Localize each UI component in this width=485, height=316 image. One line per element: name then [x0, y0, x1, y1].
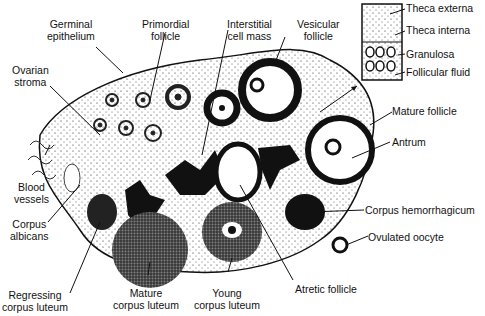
label-young-corpus-luteum: Youngcorpus luteum	[194, 287, 260, 311]
mature-cl-shape	[112, 212, 188, 288]
label-blood-vessels: Bloodvessels	[14, 181, 49, 205]
regressing-cl-shape	[87, 194, 117, 230]
label-granulosa: Granulosa	[406, 48, 454, 60]
label-theca-externa: Theca externa	[406, 2, 473, 14]
label-vesicular-follicle: Vesicularfollicle	[297, 18, 340, 42]
label-germinal-epithelium: Germinalepithelium	[47, 18, 95, 42]
label-atretic-follicle: Atretic follicle	[295, 283, 357, 295]
label-primordial-follicle: Primordialfollicle	[142, 18, 189, 42]
ovary-diagram: Germinalepithelium Primordialfollicle In…	[0, 0, 485, 316]
label-antrum: Antrum	[392, 136, 426, 148]
label-theca-interna: Theca interna	[406, 24, 470, 36]
label-follicular-fluid: Follicular fluid	[406, 66, 470, 78]
label-ovarian-stroma: Ovarianstroma	[12, 64, 49, 88]
label-mature-corpus-luteum: Maturecorpus luteum	[113, 287, 179, 311]
label-ovulated-oocyte: Ovulated oocyte	[368, 231, 444, 243]
ovulated-oocyte-shape	[333, 238, 347, 252]
label-corpus-hemorrhagicum: Corpus hemorrhagicum	[365, 204, 475, 216]
atretic-follicle-shape	[216, 144, 260, 200]
label-interstitial-cell-mass: Interstitialcell mass	[227, 18, 272, 42]
label-mature-follicle: Mature follicle	[392, 105, 457, 117]
label-regressing-corpus-luteum: Regressingcorpus luteum	[2, 289, 68, 313]
vesicular-follicle-shape	[242, 62, 298, 118]
label-corpus-albicans: Corpusalbicans	[10, 218, 49, 242]
